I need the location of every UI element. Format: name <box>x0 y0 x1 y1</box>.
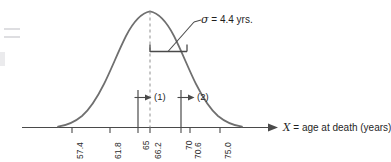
segment-1-markers <box>135 90 152 128</box>
x-tick-label-61-8: 61.8 <box>114 142 123 159</box>
sigma-annotation-label: σ = 4.4 yrs. <box>201 14 253 25</box>
segment-2-markers <box>178 90 195 128</box>
x-tick-label-75-0: 75.0 <box>224 142 233 159</box>
x-axis-title-text: = age at death (years) <box>290 122 391 133</box>
segment-2-label: (2) <box>197 92 209 102</box>
sigma-leader-tick <box>194 20 201 22</box>
x-axis-title: X = age at death (years) <box>283 122 391 133</box>
sigma-value-text: = 4.4 yrs. <box>209 14 253 25</box>
sigma-symbol: σ <box>201 13 209 26</box>
x-tick-label-65: 65 <box>142 140 151 150</box>
segment-1-label: (1) <box>154 92 166 102</box>
x-tick-label-70-6: 70.6 <box>194 142 203 159</box>
x-tick-label-57-4: 57.4 <box>76 142 85 159</box>
x-tick-label-66-2: 66.2 <box>154 142 163 159</box>
sigma-leader-line <box>168 22 194 52</box>
x-axis-ticks <box>72 128 220 134</box>
